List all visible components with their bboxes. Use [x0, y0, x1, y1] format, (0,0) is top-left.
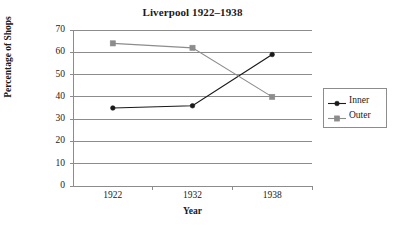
x-tick-label: 1932 — [158, 191, 228, 201]
legend-label: Inner — [349, 96, 369, 106]
plot-area — [73, 30, 312, 186]
y-tick-label: 40 — [31, 92, 65, 102]
legend-entry-outer: Outer — [327, 108, 383, 123]
series-outer — [110, 41, 275, 100]
y-tick-label: 10 — [31, 159, 65, 169]
data-point — [270, 94, 275, 99]
y-tick-label: 60 — [31, 48, 65, 58]
data-point — [110, 41, 115, 46]
chart-title: Liverpool 1922–1938 — [0, 6, 395, 18]
data-point — [111, 106, 116, 111]
y-tick-label: 70 — [31, 25, 65, 35]
x-axis-title: Year — [73, 206, 312, 216]
data-point — [190, 45, 195, 50]
legend-label: Outer — [349, 111, 371, 121]
y-tick-label: 20 — [31, 137, 65, 147]
chart-legend: InnerOuter — [323, 88, 387, 128]
plot-svg — [73, 30, 312, 186]
legend-marker-icon — [327, 110, 347, 121]
x-tick-label: 1938 — [237, 191, 307, 201]
x-axis-tick-labels: 192219321938 — [73, 191, 312, 205]
data-point — [190, 103, 195, 108]
legend-entry-inner: Inner — [327, 93, 383, 108]
x-tick-label: 1922 — [78, 191, 148, 201]
series-line — [113, 55, 272, 108]
y-tick-label: 0 — [31, 181, 65, 191]
legend-marker-icon — [327, 95, 347, 106]
series-inner — [111, 52, 275, 110]
data-point — [270, 52, 275, 57]
y-axis-title: Percentage of Shops — [3, 0, 13, 117]
y-tick-label: 30 — [31, 114, 65, 124]
y-axis-tick-labels: 010203040506070 — [31, 30, 65, 186]
data-series-layer — [110, 41, 275, 111]
axis-lines — [70, 30, 313, 190]
line-chart: Liverpool 1922–1938 Percentage of Shops … — [0, 0, 395, 228]
y-tick-label: 50 — [31, 70, 65, 80]
